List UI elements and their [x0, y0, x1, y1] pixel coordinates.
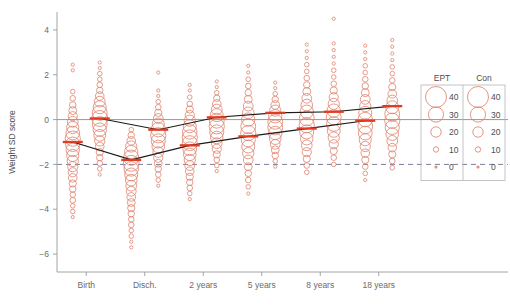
data-bubble: [364, 57, 367, 60]
data-bubble: [331, 155, 337, 161]
data-bubble: [385, 120, 399, 134]
x-tick-label: 5 years: [248, 280, 276, 290]
data-bubble: [246, 185, 251, 190]
data-bubble: [98, 173, 101, 176]
data-bubble: [358, 126, 372, 140]
data-bubble: [332, 42, 335, 45]
data-bubble: [128, 222, 134, 228]
x-tick-label: 2 years: [189, 280, 217, 290]
data-bubble: [70, 204, 75, 209]
data-bubble: [214, 90, 219, 95]
legend-size-bubble: [426, 87, 447, 108]
data-bubble: [274, 81, 277, 84]
y-tick-label: −4: [39, 204, 49, 214]
data-bubble: [360, 95, 370, 105]
data-bubble: [245, 170, 251, 176]
data-bubble: [363, 70, 368, 75]
legend-size-bubble: [475, 147, 480, 152]
data-bubble: [245, 89, 251, 95]
data-bubble: [305, 43, 308, 46]
data-bubble: [70, 197, 76, 203]
data-bubble: [247, 192, 250, 195]
data-bubble: [215, 80, 218, 83]
legend-size-label: 10: [449, 145, 459, 155]
data-bubble: [304, 163, 310, 169]
data-bubble: [332, 48, 335, 51]
data-bubble: [360, 141, 370, 151]
data-bubble: [70, 89, 75, 94]
data-bubble: [387, 136, 398, 147]
data-bubble: [272, 152, 278, 158]
data-bubble: [389, 158, 395, 164]
data-bubble: [130, 246, 133, 249]
x-tick-label: 18 years: [362, 280, 395, 290]
data-bubble: [300, 125, 314, 139]
data-bubble: [274, 165, 277, 168]
legend-size-label: 0: [491, 162, 496, 172]
data-bubble: [156, 178, 161, 183]
data-bubble: [304, 170, 309, 175]
data-bubble: [304, 75, 310, 81]
data-bubble: [389, 78, 395, 84]
data-bubble: [129, 228, 134, 233]
data-bubble: [98, 61, 101, 64]
data-bubble: [362, 76, 368, 82]
x-tick-label: 8 years: [306, 280, 334, 290]
data-bubble: [187, 95, 192, 100]
data-bubble: [273, 159, 278, 164]
data-bubble: [71, 69, 74, 72]
data-bubble: [188, 89, 191, 92]
data-bubble: [214, 163, 219, 168]
data-bubble: [304, 82, 310, 88]
data-bubble: [363, 171, 368, 176]
data-bubble: [247, 64, 250, 67]
axes: 420−2−4−6BirthDisch.2 years5 years8 year…: [7, 12, 508, 290]
legend-size-label: 30: [491, 110, 501, 120]
trend-line-EPT: [73, 121, 366, 160]
legend-size-label: 20: [449, 127, 459, 137]
x-tick-label: Birth: [78, 280, 96, 290]
legend-size-label: 10: [491, 145, 501, 155]
data-bubble: [327, 124, 340, 137]
data-bubble: [155, 166, 161, 172]
y-tick-label: −6: [39, 249, 49, 259]
y-tick-label: 2: [44, 70, 49, 80]
data-bubble: [331, 162, 336, 167]
weight-sd-score-scatter-chart: 420−2−4−6BirthDisch.2 years5 years8 year…: [0, 0, 510, 305]
data-bubble: [391, 45, 394, 48]
legend: EPTCon403020100403020100: [421, 73, 505, 181]
data-bubble: [332, 55, 335, 58]
legend-size-label: 20: [491, 127, 501, 137]
chart-root: 420−2−4−6BirthDisch.2 years5 years8 year…: [0, 0, 510, 305]
legend-column-header-EPT: EPT: [434, 73, 451, 83]
legend-size-bubble: [468, 87, 489, 108]
data-bubble: [363, 64, 368, 69]
legend-size-bubble: [477, 166, 479, 168]
data-bubble: [157, 71, 160, 74]
legend-size-label: 40: [491, 92, 501, 102]
data-bubble: [67, 155, 78, 166]
data-bubble: [215, 170, 218, 173]
data-bubble: [188, 83, 191, 86]
data-bubble: [331, 75, 336, 80]
data-bubble: [305, 50, 308, 53]
y-tick-label: −2: [39, 160, 49, 170]
x-tick-label: Disch.: [133, 280, 157, 290]
data-bubble: [305, 56, 308, 59]
data-bubble: [156, 99, 161, 104]
data-bubble: [97, 167, 102, 172]
data-bubble: [157, 94, 160, 97]
data-bubble: [364, 44, 367, 47]
legend-column-header-Con: Con: [476, 73, 492, 83]
data-bubble: [390, 65, 395, 70]
data-bubble: [71, 215, 74, 218]
data-bubble: [247, 71, 250, 74]
data-bubble: [302, 93, 312, 103]
y-tick-label: 4: [44, 25, 49, 35]
data-bubble: [157, 184, 160, 187]
data-bubble: [129, 234, 134, 239]
legend-size-bubble: [473, 127, 483, 137]
data-bubble: [391, 38, 394, 41]
data-bubble: [67, 116, 78, 127]
data-bubble: [332, 17, 335, 20]
